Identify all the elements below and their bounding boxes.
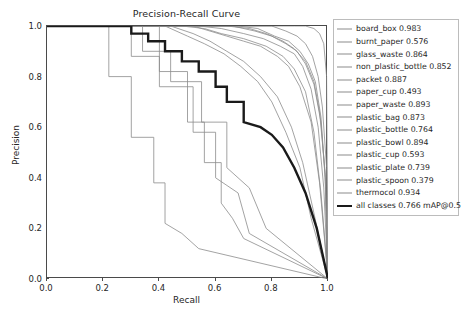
legend-line-icon <box>337 139 352 147</box>
legend-line-icon <box>337 38 352 46</box>
y-tick-label: 0.2 <box>16 223 42 233</box>
legend-line-icon <box>337 50 352 58</box>
legend-line-icon <box>337 202 352 210</box>
plot-area <box>46 25 327 278</box>
legend-item-label: plastic_bag 0.873 <box>356 114 425 122</box>
legend-item-label: glass_waste 0.864 <box>356 51 428 59</box>
legend-item-paper_waste: paper_waste 0.893 <box>337 99 454 112</box>
legend-line-icon <box>337 76 352 84</box>
curves-layer <box>47 26 328 279</box>
x-tick-mark <box>102 278 103 281</box>
legend-line-icon <box>337 63 352 71</box>
legend-item-label: plastic_spoon 0.379 <box>356 177 434 185</box>
legend-line-icon <box>337 88 352 96</box>
y-tick-label: 0.8 <box>16 71 42 81</box>
legend-item-label: packet 0.887 <box>356 76 407 84</box>
x-tick-mark <box>46 278 47 281</box>
x-axis-label: Recall <box>46 295 327 305</box>
y-tick-label: 0.0 <box>16 274 42 284</box>
legend-line-icon <box>337 101 352 109</box>
x-tick-label: 0.4 <box>138 283 178 293</box>
legend-item-plastic_bowl: plastic_bowl 0.894 <box>337 136 454 149</box>
legend-item-glass_waste: glass_waste 0.864 <box>337 48 454 61</box>
legend-item-plastic_spoon: plastic_spoon 0.379 <box>337 174 454 187</box>
legend-item-plastic_bag: plastic_bag 0.873 <box>337 111 454 124</box>
legend-item-label: plastic_plate 0.739 <box>356 164 430 172</box>
legend-item-thermocol: thermocol 0.934 <box>337 187 454 200</box>
legend-item-label: paper_waste 0.893 <box>356 101 430 109</box>
legend-item-plastic_bottle: plastic_bottle 0.764 <box>337 124 454 137</box>
x-tick-mark <box>327 278 328 281</box>
legend-item-plastic_plate: plastic_plate 0.739 <box>337 162 454 175</box>
legend-item-packet: packet 0.887 <box>337 73 454 86</box>
y-axis-label: Precision <box>11 95 21 195</box>
legend-line-icon <box>337 164 352 172</box>
legend-line-icon <box>337 113 352 121</box>
y-tick-label: 1.0 <box>16 21 42 31</box>
legend-item-paper_cup: paper_cup 0.493 <box>337 86 454 99</box>
legend-line-icon <box>337 126 352 134</box>
x-tick-label: 0.8 <box>251 283 291 293</box>
legend-item-label: burnt_paper 0.576 <box>356 38 428 46</box>
x-tick-label: 0.0 <box>26 283 66 293</box>
precision-recall-figure: Precision-Recall Curve 0.00.20.40.60.81.… <box>0 0 470 318</box>
legend-line-icon <box>337 176 352 184</box>
legend-line-icon <box>337 25 352 33</box>
legend-item-label: paper_cup 0.493 <box>356 88 422 96</box>
legend: board_box 0.983burnt_paper 0.576glass_wa… <box>333 19 459 216</box>
legend-item-label: plastic_bottle 0.764 <box>356 126 433 134</box>
legend-item-label: plastic_cup 0.593 <box>356 151 424 159</box>
x-tick-label: 0.2 <box>82 283 122 293</box>
legend-item-board_box: board_box 0.983 <box>337 23 454 36</box>
legend-item-non_plastic_bottle: non_plastic_bottle 0.852 <box>337 61 454 74</box>
x-tick-mark <box>215 278 216 281</box>
x-tick-label: 0.6 <box>195 283 235 293</box>
legend-item-label: thermocol 0.934 <box>356 189 420 197</box>
legend-line-icon <box>337 151 352 159</box>
legend-item-label: all classes 0.766 mAP@0.5 <box>356 202 461 210</box>
legend-item-all_classes: all classes 0.766 mAP@0.5 <box>337 199 454 212</box>
x-tick-label: 1.0 <box>307 283 347 293</box>
legend-item-label: board_box 0.983 <box>356 25 421 33</box>
legend-item-plastic_cup: plastic_cup 0.593 <box>337 149 454 162</box>
x-tick-mark <box>271 278 272 281</box>
x-tick-mark <box>158 278 159 281</box>
legend-item-label: plastic_bowl 0.894 <box>356 139 428 147</box>
legend-item-burnt_paper: burnt_paper 0.576 <box>337 36 454 49</box>
legend-item-label: non_plastic_bottle 0.852 <box>356 63 452 71</box>
page-title: Precision-Recall Curve <box>46 8 327 19</box>
legend-line-icon <box>337 189 352 197</box>
